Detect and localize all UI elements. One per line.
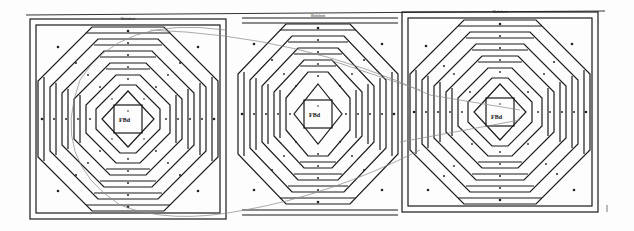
block-header-label: Worksheet xyxy=(108,17,148,21)
block-header-label: Worksheet xyxy=(298,14,338,18)
pattern-block-middle: Worksheet FBd xyxy=(232,14,404,219)
pattern-block-left: Worksheet FBd xyxy=(28,17,228,222)
pattern-block-right: Worksheet FBd xyxy=(400,10,602,215)
block-header-label: Worksheet xyxy=(480,10,520,14)
pattern-sheet: Worksheet FBd xyxy=(0,0,634,231)
center-piece-label: FBd xyxy=(309,112,320,118)
center-piece-label: FBd xyxy=(491,114,502,120)
center-piece-label: FBd xyxy=(119,117,130,123)
